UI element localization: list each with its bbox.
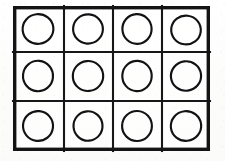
grid-cell [64, 101, 113, 151]
grid-cell [13, 6, 64, 52]
cell-background-layer [13, 6, 210, 151]
grid-cell [13, 52, 64, 101]
grid-cell [162, 52, 210, 101]
figure-canvas [0, 0, 225, 161]
grid-cell [13, 101, 64, 151]
circle-grid-figure [13, 6, 210, 151]
grid-cell [113, 52, 162, 101]
grid-svg [13, 6, 210, 151]
grid-cell [162, 101, 210, 151]
grid-cell [113, 101, 162, 151]
grid-cell [64, 6, 113, 52]
grid-cell [113, 6, 162, 52]
grid-cell [64, 52, 113, 101]
